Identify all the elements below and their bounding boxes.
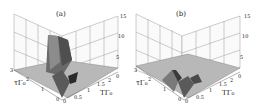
z-tick: 15 <box>244 14 250 19</box>
T-tick: 0 <box>116 74 119 79</box>
T-tick: 1 <box>87 88 90 93</box>
tau-tick: 2 <box>148 77 151 82</box>
panel-label: (b) <box>176 11 186 18</box>
T-axis-title: TΓ₀ <box>222 90 234 97</box>
T-axis-title: TΓ₀ <box>100 90 112 97</box>
z-tick: 15 <box>120 14 126 19</box>
tau-tick: 3 <box>10 68 13 73</box>
T-tick: 0 <box>238 74 241 79</box>
z-tick: 10 <box>118 34 124 39</box>
panel-a: (a) 15 10 5 3 2 1 0 τΓ₀ 0 0.5 1 1.5 2 0 … <box>0 0 132 111</box>
T-tick: 1.5 <box>219 82 227 87</box>
T-tick: 0 <box>63 99 66 104</box>
T-tick: 0.5 <box>74 95 82 100</box>
tau-tick: 2 <box>26 77 29 82</box>
T-tick: 2 <box>108 78 111 83</box>
tau-axis-title: τΓ₀ <box>136 80 148 87</box>
tau-tick: 1 <box>41 87 44 92</box>
panel-b: (b) 15 10 5 3 2 1 0 τΓ₀ 0 0.5 1 1.5 2 0 … <box>132 0 264 111</box>
panel-label: (a) <box>56 11 66 18</box>
tau-tick: 3 <box>134 68 137 73</box>
T-tick: 0 <box>185 99 188 104</box>
tau-tick: 0 <box>56 97 59 102</box>
z-tick: 5 <box>240 55 243 60</box>
T-tick: 2 <box>230 78 233 83</box>
tau-tick: 1 <box>163 87 166 92</box>
z-tick: 5 <box>116 55 119 60</box>
T-tick: 0.5 <box>196 95 204 100</box>
tau-axis-title: τΓ₀ <box>14 80 26 87</box>
tau-tick: 0 <box>178 97 181 102</box>
T-tick: 1.5 <box>97 82 105 87</box>
T-tick: 1 <box>209 88 212 93</box>
z-tick: 10 <box>242 34 248 39</box>
